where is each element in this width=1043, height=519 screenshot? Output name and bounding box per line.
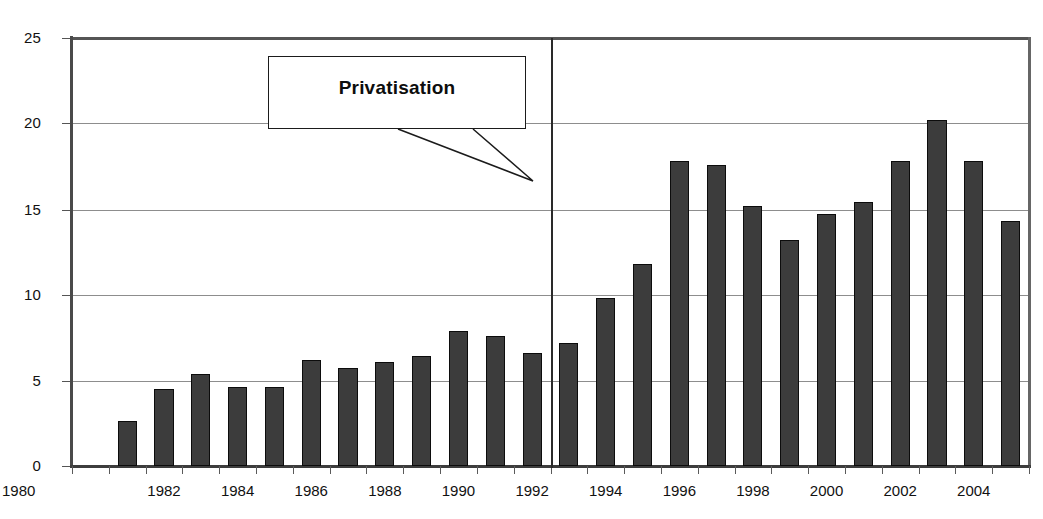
bar-2000 (817, 214, 836, 466)
x-tick-mark-1980 (72, 466, 73, 474)
x-tick-label-1992: 1992 (515, 482, 548, 499)
x-tick-mark-1995 (624, 466, 625, 474)
y-tick-label-0: 0 (32, 457, 41, 474)
x-tick-mark-1985 (256, 466, 257, 474)
x-tick-mark-1984 (219, 466, 220, 474)
x-tick-label-1982: 1982 (147, 482, 180, 499)
x-tick-label-2002: 2002 (883, 482, 916, 499)
x-tick-mark-2001 (845, 466, 846, 474)
bar-1987 (338, 368, 357, 466)
bar-1984 (228, 387, 247, 466)
bar-1985 (265, 387, 284, 466)
x-tick-mark-1990 (440, 466, 441, 474)
bar-1996 (670, 161, 689, 466)
x-tick-mark-2000 (808, 466, 809, 474)
y-tick-label-15: 15 (24, 201, 41, 218)
x-tick-label-2004: 2004 (957, 482, 990, 499)
y-tick-label-25: 25 (24, 29, 41, 46)
x-tick-label-1988: 1988 (368, 482, 401, 499)
x-tick-label-1998: 1998 (736, 482, 769, 499)
x-tick-mark-1994 (587, 466, 588, 474)
x-tick-label-1996: 1996 (663, 482, 696, 499)
bar-2005 (1001, 221, 1020, 466)
x-tick-mark-1998 (735, 466, 736, 474)
x-tick-mark-2003 (919, 466, 920, 474)
privatisation-callout: Privatisation (268, 56, 526, 129)
privatisation-callout-label: Privatisation (269, 77, 525, 99)
bar-1983 (191, 374, 210, 466)
x-tick-mark-1996 (661, 466, 662, 474)
bar-1990 (449, 331, 468, 466)
bar-2003 (927, 120, 946, 466)
x-tick-mark-2005 (992, 466, 993, 474)
bar-1997 (707, 165, 726, 466)
x-tick-mark-1988 (366, 466, 367, 474)
x-tick-mark-1997 (698, 466, 699, 474)
bar-chart: 25 20 15 10 5 0 198219841986198819901992… (0, 0, 1043, 519)
x-axis-origin-label: 1980 (2, 482, 35, 499)
x-tick-mark-1983 (182, 466, 183, 474)
bar-1993 (559, 343, 578, 466)
plot-right-border (1028, 37, 1031, 467)
x-tick-mark-1992 (514, 466, 515, 474)
x-tick-mark-1999 (771, 466, 772, 474)
bar-1998 (743, 206, 762, 466)
bar-1989 (412, 356, 431, 466)
x-tick-mark-1991 (477, 466, 478, 474)
bar-1992 (523, 353, 542, 466)
x-tick-label-1984: 1984 (221, 482, 254, 499)
x-tick-label-1986: 1986 (295, 482, 328, 499)
bar-1986 (302, 360, 321, 466)
y-tick-label-5: 5 (32, 372, 41, 389)
bar-1991 (486, 336, 505, 466)
x-tick-mark-1989 (403, 466, 404, 474)
bar-1994 (596, 298, 615, 466)
x-tick-label-1994: 1994 (589, 482, 622, 499)
bar-2001 (854, 202, 873, 466)
x-tick-mark-2002 (882, 466, 883, 474)
x-tick-mark-1982 (146, 466, 147, 474)
x-tick-label-1990: 1990 (442, 482, 475, 499)
bar-1999 (780, 240, 799, 466)
x-tick-mark-1987 (330, 466, 331, 474)
bar-2002 (891, 161, 910, 466)
bar-2004 (964, 161, 983, 466)
y-tick-label-10: 10 (24, 286, 41, 303)
x-tick-mark-2004 (955, 466, 956, 474)
x-tick-mark-1986 (293, 466, 294, 474)
bar-1988 (375, 362, 394, 466)
x-tick-mark-1981 (109, 466, 110, 474)
bar-1981 (118, 421, 137, 466)
y-tick-label-20: 20 (24, 114, 41, 131)
bar-1982 (154, 389, 173, 466)
y-axis-line (70, 36, 73, 468)
x-tick-label-2000: 2000 (810, 482, 843, 499)
bar-1995 (633, 264, 652, 466)
x-tick-mark-2006 (1029, 466, 1030, 474)
